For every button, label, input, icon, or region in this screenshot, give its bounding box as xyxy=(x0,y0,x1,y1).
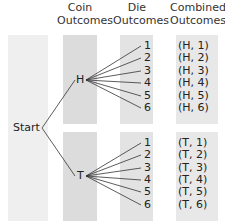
die-outcome-h4: 4 xyxy=(144,77,151,89)
combined-t5: (T, 5) xyxy=(178,186,207,199)
combined-h6: (H, 6) xyxy=(178,102,209,115)
die-outcome-h2: 2 xyxy=(144,52,151,64)
heads-node: H xyxy=(76,74,84,86)
die-outcome-t5: 5 xyxy=(144,186,151,198)
combined-h2: (H, 2) xyxy=(178,52,209,65)
combined-t6: (T, 6) xyxy=(178,199,207,212)
combined-h4: (H, 4) xyxy=(178,77,209,90)
tails-node: T xyxy=(77,170,84,182)
combined-t2: (T, 2) xyxy=(178,149,207,162)
die-outcome-t6: 6 xyxy=(144,199,151,211)
die-outcome-t2: 2 xyxy=(144,149,151,161)
start-node: Start xyxy=(13,122,40,134)
branch-start-tails xyxy=(42,128,75,176)
branch-start-heads xyxy=(42,80,75,128)
die-outcome-h6: 6 xyxy=(144,102,151,114)
